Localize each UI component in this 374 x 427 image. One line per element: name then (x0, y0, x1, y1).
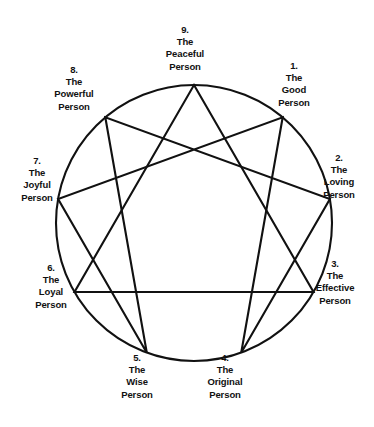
enneagram-label-7: 7. The Joyful Person (4, 155, 70, 204)
label-4-number: 4. (186, 352, 264, 364)
label-3-line3: Person (296, 295, 374, 307)
label-2-line2: Loving (306, 176, 372, 188)
label-5-line1: The (104, 364, 170, 376)
enneagram-label-6: 6. The Loyal Person (18, 262, 84, 311)
enneagram-triangle (75, 85, 314, 292)
label-6-line1: The (18, 274, 84, 286)
label-3-line1: The (296, 270, 374, 282)
enneagram-label-8: 8. The Powerful Person (32, 64, 116, 113)
label-7-number: 7. (4, 155, 70, 167)
label-9-number: 9. (142, 24, 228, 36)
label-7-line3: Person (4, 192, 70, 204)
label-2-line3: Person (306, 189, 372, 201)
label-6-number: 6. (18, 262, 84, 274)
label-4-line3: Person (186, 389, 264, 401)
label-5-number: 5. (104, 352, 170, 364)
label-1-line1: The (256, 72, 332, 84)
label-9-line3: Person (142, 61, 228, 73)
label-5-line3: Person (104, 389, 170, 401)
enneagram-hexad (58, 117, 330, 352)
label-1-number: 1. (256, 60, 332, 72)
label-3-number: 3. (296, 258, 374, 270)
label-4-line1: The (186, 364, 264, 376)
label-8-line1: The (32, 76, 116, 88)
label-6-line2: Loyal (18, 286, 84, 298)
label-5-line2: Wise (104, 376, 170, 388)
label-9-line2: Peaceful (142, 48, 228, 60)
enneagram-label-5: 5. The Wise Person (104, 352, 170, 401)
label-4-line2: Original (186, 376, 264, 388)
enneagram-label-3: 3. The Effective Person (296, 258, 374, 307)
label-7-line2: Joyful (4, 179, 70, 191)
enneagram-circle (56, 85, 332, 361)
label-1-line2: Good (256, 84, 332, 96)
enneagram-diagram: 9. The Peaceful Person 1. The Good Perso… (0, 0, 374, 427)
label-2-number: 2. (306, 152, 372, 164)
enneagram-label-4: 4. The Original Person (186, 352, 264, 401)
enneagram-label-1: 1. The Good Person (256, 60, 332, 109)
label-8-number: 8. (32, 64, 116, 76)
enneagram-label-9: 9. The Peaceful Person (142, 24, 228, 73)
label-2-line1: The (306, 164, 372, 176)
label-3-line2: Effective (296, 282, 374, 294)
label-7-line1: The (4, 167, 70, 179)
label-6-line3: Person (18, 299, 84, 311)
label-8-line3: Person (32, 101, 116, 113)
label-1-line3: Person (256, 97, 332, 109)
label-8-line2: Powerful (32, 88, 116, 100)
enneagram-label-2: 2. The Loving Person (306, 152, 372, 201)
label-9-line1: The (142, 36, 228, 48)
